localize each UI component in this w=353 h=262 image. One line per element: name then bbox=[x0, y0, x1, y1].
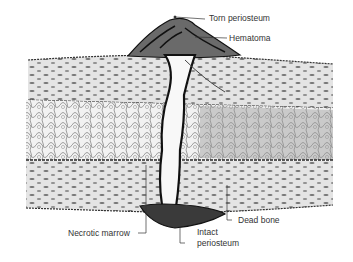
bone-diagram: Torn periosteum Hematoma Dead bone Necro… bbox=[0, 0, 353, 262]
label-necrotic-marrow: Necrotic marrow bbox=[68, 229, 130, 238]
bone-illustration bbox=[0, 0, 353, 262]
label-hematoma: Hematoma bbox=[229, 34, 271, 43]
label-intact: Intact bbox=[197, 228, 218, 237]
label-dead-bone: Dead bone bbox=[238, 216, 280, 225]
label-torn-periosteum: Torn periosteum bbox=[209, 14, 270, 23]
label-periosteum: periosteum bbox=[197, 239, 239, 248]
